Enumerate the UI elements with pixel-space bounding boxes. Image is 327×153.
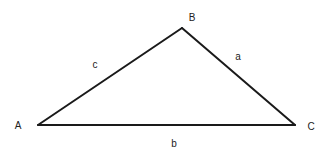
triangle-diagram: A B C a b c bbox=[0, 0, 327, 153]
side-c-line bbox=[38, 28, 182, 125]
side-label-c: c bbox=[93, 59, 98, 70]
side-label-b: b bbox=[171, 138, 177, 149]
vertex-label-c: C bbox=[307, 121, 314, 132]
side-a-line bbox=[182, 28, 295, 125]
vertex-label-a: A bbox=[15, 120, 22, 131]
vertex-label-b: B bbox=[189, 12, 196, 23]
side-label-a: a bbox=[235, 51, 241, 62]
